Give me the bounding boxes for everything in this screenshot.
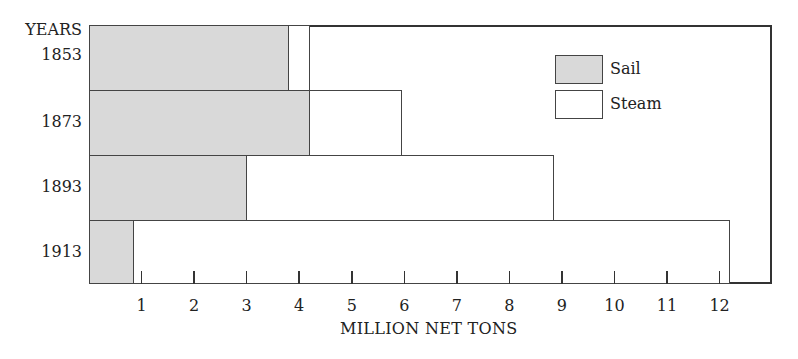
bar-sail-1913 <box>89 220 134 284</box>
x-tick <box>298 271 300 284</box>
x-tick <box>509 271 511 284</box>
x-tick <box>456 271 458 284</box>
x-tick-label: 12 <box>705 296 735 315</box>
x-tick <box>193 271 195 284</box>
bar-steam-1913 <box>89 220 730 284</box>
bar-sail-1873 <box>89 90 310 156</box>
x-tick-label: 5 <box>337 296 367 315</box>
y-label-1893: 1893 <box>12 177 82 196</box>
x-tick <box>246 271 248 284</box>
x-tick-label: 10 <box>600 296 630 315</box>
y-label-1873: 1873 <box>12 112 82 131</box>
y-label-1913: 1913 <box>12 242 82 261</box>
legend-steam-label: Steam <box>610 94 662 113</box>
x-tick <box>561 271 563 284</box>
x-tick <box>404 271 406 284</box>
y-label-1853: 1853 <box>12 45 82 64</box>
legend-sail-label: Sail <box>610 59 641 78</box>
x-tick-label: 1 <box>127 296 157 315</box>
x-tick-label: 11 <box>652 296 682 315</box>
x-tick <box>719 271 721 284</box>
bar-sail-1853 <box>89 25 289 91</box>
x-tick-label: 8 <box>494 296 524 315</box>
x-tick <box>614 271 616 284</box>
x-tick-label: 4 <box>284 296 314 315</box>
x-tick <box>666 271 668 284</box>
x-tick-label: 7 <box>442 296 472 315</box>
x-tick <box>141 271 143 284</box>
x-tick-label: 2 <box>179 296 209 315</box>
legend-steam-swatch <box>555 90 603 119</box>
bar-sail-1893 <box>89 155 247 221</box>
legend-sail-swatch <box>555 55 603 84</box>
x-tick-label: 6 <box>389 296 419 315</box>
x-axis-title: MILLION NET TONS <box>340 319 517 338</box>
x-tick <box>351 271 353 284</box>
x-tick-label: 9 <box>547 296 577 315</box>
x-tick-label: 3 <box>232 296 262 315</box>
y-axis-title: YEARS <box>12 20 82 39</box>
